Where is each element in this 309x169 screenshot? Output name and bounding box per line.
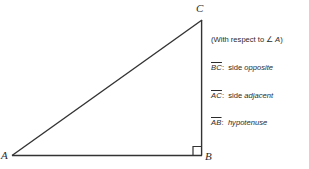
legend-colon: : (222, 91, 224, 100)
segment-ac-hypotenuse (12, 20, 202, 156)
vertex-label-c: C (196, 3, 203, 14)
triangle-drawing (0, 0, 309, 169)
legend-row-adjacent: AC: side adjacent (211, 92, 273, 100)
legend-colon: : (222, 63, 224, 72)
segment-name-ac: AC (211, 91, 222, 100)
legend-note-text: (With respect to (211, 35, 266, 44)
legend-colon: : (222, 118, 224, 127)
vertex-label-a: A (1, 150, 8, 161)
legend-row-opposite: BC: side opposite (211, 64, 273, 72)
legend-prefix: side (228, 91, 244, 100)
legend-term-opposite: opposite (244, 63, 273, 72)
legend-note: (With respect to ∠ A) (211, 36, 283, 44)
right-angle-marker-icon (193, 147, 202, 156)
segment-name-bc: BC (211, 63, 222, 72)
vertex-label-b: B (205, 151, 212, 162)
legend-note-close: ) (280, 35, 283, 44)
legend-term-hypotenuse: hypotenuse (228, 118, 267, 127)
legend-term-adjacent: adjacent (244, 91, 273, 100)
right-triangle-figure: A B C (With respect to ∠ A) BC: side opp… (0, 0, 309, 169)
legend-prefix: side (228, 63, 244, 72)
legend-row-hypotenuse: AB: hypotenuse (211, 119, 267, 127)
segment-name-ab: AB (211, 118, 222, 127)
